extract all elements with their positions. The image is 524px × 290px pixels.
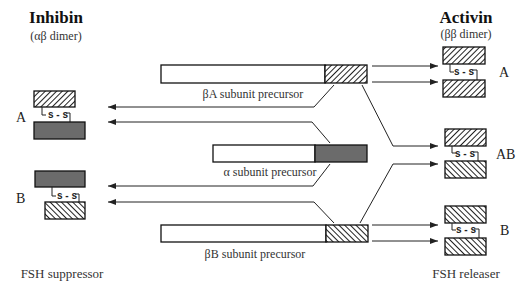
alpha-precursor-label: α subunit precursor [224, 165, 317, 179]
inhibin-B-letter: B [16, 191, 25, 206]
activin-B: s - s B [445, 206, 509, 255]
arrows-to-activin [360, 66, 438, 241]
inhibin-activin-diagram: Inhibin (αβ dimer) Activin (ββ dimer) βA… [0, 0, 524, 290]
disulfide-bond: s - s [454, 66, 474, 77]
betaB-precursor: βB subunit precursor [161, 225, 368, 261]
alpha-precursor: α subunit precursor [213, 145, 367, 179]
activin-B-letter: B [500, 223, 509, 238]
activin-footer: FSH releaser [432, 266, 500, 281]
betaB-precursor-label: βB subunit precursor [205, 247, 306, 261]
inhibin-A: A s - s [16, 91, 85, 139]
betaA-precursor: βA subunit precursor [161, 65, 367, 101]
activin-A: s - s A [443, 47, 510, 97]
betaA-precursor-label: βA subunit precursor [203, 87, 304, 101]
disulfide-bond: s - s [48, 109, 68, 120]
activin-AB: s - s AB [445, 129, 515, 178]
activin-AB-letter: AB [496, 147, 515, 162]
inhibin-title: Inhibin [29, 8, 83, 27]
activin-A-letter: A [499, 65, 510, 80]
activin-subtitle: (ββ dimer) [440, 27, 491, 41]
inhibin-A-letter: A [16, 110, 27, 125]
inhibin-subtitle: (αβ dimer) [30, 29, 81, 43]
disulfide-bond: s - s [57, 190, 77, 201]
disulfide-bond: s - s [455, 148, 475, 159]
inhibin-footer: FSH suppressor [21, 266, 104, 281]
inhibin-B: B s - s [16, 171, 85, 219]
activin-title: Activin [440, 8, 493, 27]
disulfide-bond: s - s [456, 224, 476, 235]
